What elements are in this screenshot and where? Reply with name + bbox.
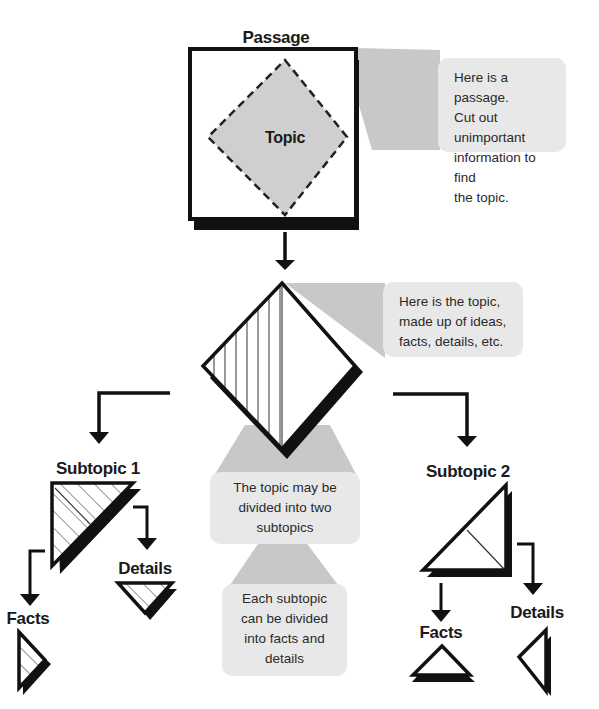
subtopics-callout-line: divided into two [218,498,352,518]
subtopic2-facts-triangle [412,646,475,682]
subtopics-callout-line: The topic may be [218,478,352,498]
subtopic2-details-triangle [519,630,551,696]
topic-diagram: Passage Topic Subtopic 1 Subtopic 2 Deta… [0,0,599,709]
topic-label: Topic [265,129,305,147]
subtopic2-triangle [423,485,512,577]
facts-details-callout: Each subtopic can be divided into facts … [222,584,347,676]
facts-details-callout-line: details [230,649,339,669]
arrow-passage-to-topic [275,232,295,270]
subtopics-callout-line: subtopics [218,518,352,538]
topic-callout: Here is the topic, made up of ideas, fac… [383,282,523,357]
facts-details-callout-line: can be divided [230,609,339,629]
facts-details-callout-line: into facts and [230,629,339,649]
subtopic2-label: Subtopic 2 [426,462,510,482]
facts-details-callout-wedge [230,541,338,585]
facts-details-callout-line: Each subtopic [230,589,339,609]
arrow-subtopic1-to-details [133,507,157,550]
subtopics-callout: The topic may be divided into two subtop… [210,472,360,544]
subtopic1-details-triangle [118,583,177,620]
passage-callout-line: the topic. [454,188,556,208]
arrow-subtopic2-to-facts [431,583,451,622]
subtopic1-facts-label: Facts [7,609,50,629]
passage-label: Passage [243,28,310,48]
arrow-topic-to-subtopic1 [89,393,170,444]
subtopic2-details-label: Details [510,603,564,623]
topic-callout-line: facts, details, etc. [399,332,513,352]
arrow-topic-to-subtopic2 [393,394,477,447]
subtopic1-facts-triangle [19,632,51,695]
subtopic2-facts-label: Facts [420,623,463,643]
topic-callout-line: made up of ideas, [399,312,513,332]
passage-callout: Here is a passage. Cut out unimportant i… [438,58,566,152]
passage-callout-wedge [356,48,440,150]
arrow-subtopic2-to-details [517,544,543,595]
passage-callout-line: Here is a passage. [454,68,556,108]
subtopic1-details-label: Details [118,559,172,579]
passage-callout-line: Cut out unimportant [454,108,556,148]
passage-callout-line: information to find [454,148,556,188]
subtopic1-label: Subtopic 1 [56,459,140,479]
arrow-subtopic1-to-facts [20,551,45,606]
topic-callout-line: Here is the topic, [399,292,513,312]
